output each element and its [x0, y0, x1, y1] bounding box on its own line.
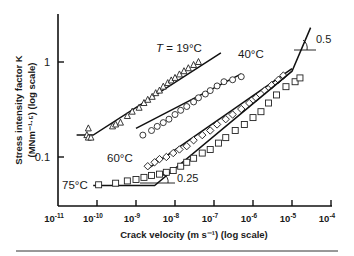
- series-circle: [136, 74, 244, 138]
- data-point: [266, 100, 272, 106]
- data-point: [199, 150, 205, 156]
- data-point: [215, 140, 221, 146]
- data-point: [258, 109, 264, 115]
- data-point: [184, 159, 190, 165]
- data-point: [184, 104, 190, 110]
- x-tick-label: 10-7: [202, 212, 219, 224]
- data-point: [230, 77, 236, 83]
- data-point: [176, 146, 183, 153]
- data-point: [96, 182, 102, 188]
- data-point: [85, 125, 91, 131]
- data-point: [141, 174, 147, 180]
- data-point: [223, 135, 229, 141]
- label-19c: T = 19°C: [156, 42, 202, 54]
- data-point: [140, 132, 146, 138]
- data-point: [144, 163, 151, 170]
- data-point: [250, 115, 256, 121]
- data-point: [154, 123, 160, 129]
- data-point: [207, 146, 213, 152]
- data-point: [149, 128, 155, 134]
- data-point: [170, 168, 176, 174]
- data-point: [241, 121, 247, 127]
- data-point: [273, 92, 279, 98]
- fit-line: [77, 53, 221, 135]
- x-tick-label: 10-11: [44, 212, 64, 224]
- data-point: [170, 149, 177, 156]
- slope-triangle-high: [294, 40, 316, 50]
- x-tick-label: 10-10: [83, 212, 103, 224]
- data-point: [195, 59, 201, 65]
- data-point: [133, 176, 139, 182]
- data-point: [178, 163, 184, 169]
- data-point: [113, 180, 119, 186]
- data-point: [160, 120, 166, 126]
- y-tick-label-1: 1: [44, 56, 50, 68]
- svg-text:(MNm⁻¹·⁵) (log scale): (MNm⁻¹·⁵) (log scale): [26, 63, 37, 158]
- crack-velocity-chart: 10-1110-1010-910-810-710-610-510-4 1 0.1…: [0, 0, 354, 256]
- data-point: [190, 137, 197, 144]
- data-point: [232, 128, 238, 134]
- data-point: [166, 116, 172, 122]
- label-60c: 60°C: [107, 152, 133, 164]
- slope-label-high: 0.5: [316, 33, 331, 45]
- x-tick-label: 10-5: [280, 212, 297, 224]
- data-point: [214, 83, 220, 89]
- data-point: [172, 112, 178, 118]
- x-tick-label: 10-4: [319, 212, 336, 224]
- x-ticks: 10-1110-1010-910-810-710-610-510-4: [44, 200, 335, 224]
- label-40c: 40°C: [238, 48, 264, 60]
- x-tick-label: 10-6: [241, 212, 258, 224]
- data-point: [297, 75, 303, 81]
- slope-label-low: 0.25: [177, 172, 198, 184]
- x-tick-label: 10-8: [163, 212, 180, 224]
- data-point: [149, 172, 155, 178]
- data-point: [195, 95, 201, 101]
- data-point: [207, 88, 213, 94]
- svg-text:Stress intensity factor K: Stress intensity factor K: [13, 55, 24, 164]
- label-75c: 75°C: [62, 179, 88, 191]
- x-axis-title: Crack velocity (m s⁻¹) (log scale): [120, 229, 268, 240]
- data-point: [178, 107, 184, 113]
- data-point: [283, 84, 289, 90]
- data-point: [117, 119, 123, 125]
- x-tick-label: 10-9: [124, 212, 141, 224]
- y-axis-title: Stress intensity factor K (MNm⁻¹·⁵) (log…: [13, 55, 37, 164]
- data-point: [221, 79, 227, 85]
- data-point: [124, 178, 130, 184]
- data-point: [191, 155, 197, 161]
- data-point: [156, 171, 162, 177]
- data-point: [238, 74, 244, 80]
